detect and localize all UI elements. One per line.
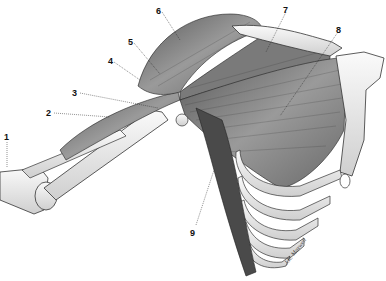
anatomy-illustration bbox=[0, 0, 386, 281]
label-6: 6 bbox=[156, 7, 161, 16]
label-1: 1 bbox=[4, 133, 9, 142]
label-4: 4 bbox=[108, 57, 113, 66]
label-8: 8 bbox=[336, 26, 341, 35]
label-5: 5 bbox=[128, 38, 133, 47]
label-3: 3 bbox=[72, 89, 77, 98]
label-7: 7 bbox=[283, 6, 288, 15]
label-2: 2 bbox=[46, 109, 51, 118]
xiphoid-process bbox=[340, 174, 350, 188]
coracoid-process bbox=[176, 114, 188, 126]
label-9: 9 bbox=[190, 229, 195, 238]
